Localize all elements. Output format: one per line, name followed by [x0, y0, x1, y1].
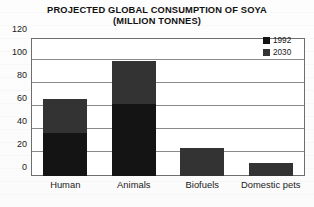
- legend-swatch-icon-2030: [263, 49, 270, 56]
- bar-segment-1992[interactable]: [43, 133, 87, 176]
- y-axis: 020406080100120: [0, 38, 27, 176]
- bar-segment-2030[interactable]: [112, 61, 156, 104]
- bar-segment-2030[interactable]: [180, 148, 224, 176]
- x-tick-label-human: Human: [31, 179, 100, 191]
- bar-human[interactable]: [43, 99, 87, 176]
- x-axis: HumanAnimalsBiofuelsDomestic pets: [31, 179, 305, 195]
- bar-biofuels[interactable]: [180, 148, 224, 176]
- legend-swatch-icon-1992: [263, 37, 270, 44]
- bar-segment-2030[interactable]: [249, 163, 293, 176]
- chart-legend: 19922030: [263, 35, 307, 59]
- legend-label-1992: 1992: [273, 36, 291, 45]
- y-tick-label-20: 20: [0, 140, 27, 149]
- x-tick-label-domestic-pets: Domestic pets: [237, 179, 306, 191]
- y-tick-label-100: 100: [0, 48, 27, 57]
- legend-item-1992[interactable]: 1992: [263, 35, 307, 46]
- bar-segment-1992[interactable]: [112, 104, 156, 176]
- bar-animals[interactable]: [112, 61, 156, 176]
- legend-label-2030: 2030: [273, 48, 291, 57]
- soya-consumption-bar-chart: PROJECTED GLOBAL CONSUMPTION OF SOYA (MI…: [0, 0, 314, 207]
- y-tick-label-60: 60: [0, 94, 27, 103]
- bar-segment-2030[interactable]: [43, 99, 87, 134]
- x-tick-label-biofuels: Biofuels: [168, 179, 237, 191]
- x-tick-label-animals: Animals: [100, 179, 169, 191]
- chart-title: PROJECTED GLOBAL CONSUMPTION OF SOYA: [0, 5, 314, 16]
- y-tick-label-0: 0: [0, 163, 27, 172]
- legend-item-2030[interactable]: 2030: [263, 47, 307, 58]
- y-tick-label-80: 80: [0, 71, 27, 80]
- chart-subtitle: (MILLION TONNES): [0, 16, 314, 27]
- y-tick-label-40: 40: [0, 117, 27, 126]
- chart-title-block: PROJECTED GLOBAL CONSUMPTION OF SOYA (MI…: [0, 5, 314, 27]
- bar-domestic-pets[interactable]: [249, 163, 293, 176]
- y-tick-label-120: 120: [0, 25, 27, 34]
